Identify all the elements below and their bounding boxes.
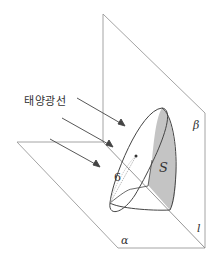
plane-alpha-label: α	[121, 234, 128, 247]
geometry-figure	[0, 0, 221, 264]
line-l-label: l	[197, 222, 201, 235]
sun-rays	[50, 98, 125, 167]
sun-rays-label: 태양광선	[24, 92, 66, 108]
shadow-bottom-curve	[110, 203, 170, 210]
plane-beta-label: β	[193, 119, 199, 132]
plane-beta	[103, 14, 205, 248]
shadow-region-s	[148, 108, 176, 210]
area-s-label: S	[159, 160, 168, 175]
radius-label: 6	[114, 171, 121, 184]
diagram-canvas: 태양광선 β S 6 l α	[0, 0, 221, 264]
